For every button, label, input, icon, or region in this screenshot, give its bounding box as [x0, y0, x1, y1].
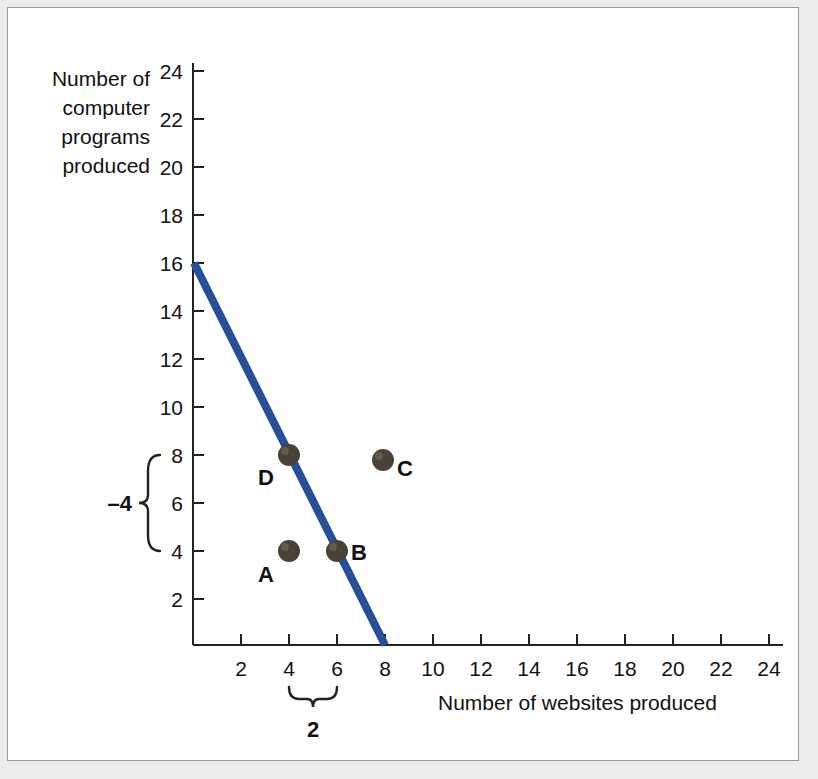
y-axis-brace: –4 [108, 455, 160, 551]
y-tick-label: 12 [160, 348, 183, 371]
x-tick-label: 22 [709, 657, 732, 680]
x-tick-label: 4 [283, 657, 295, 680]
y-axis-ticks [193, 71, 204, 599]
x-tick-label: 12 [469, 657, 492, 680]
chart-plot-area: 24 22 20 18 16 14 12 10 8 6 4 2 [8, 8, 800, 762]
data-point-a[interactable]: A [258, 540, 300, 587]
x-tick-label: 18 [613, 657, 636, 680]
y-tick-label: 6 [171, 492, 183, 515]
x-tick-label: 8 [379, 657, 391, 680]
x-tick-label: 24 [757, 657, 781, 680]
figure-page: Number of computer programs produced Num… [0, 0, 818, 779]
data-point-c[interactable]: C [372, 449, 413, 481]
x-axis-brace: 2 [289, 687, 337, 742]
x-tick-label: 20 [661, 657, 684, 680]
x-tick-label: 6 [331, 657, 343, 680]
y-tick-label: 14 [160, 300, 184, 323]
y-tick-label: 10 [160, 396, 183, 419]
data-point-label-c: C [397, 456, 413, 481]
y-axis-brace-label: –4 [108, 491, 133, 516]
data-point-label-a: A [258, 562, 274, 587]
y-tick-label: 22 [160, 108, 183, 131]
y-tick-label: 24 [160, 60, 184, 83]
x-tick-label: 10 [421, 657, 444, 680]
x-axis-brace-label: 2 [307, 717, 319, 742]
y-tick-label: 4 [171, 540, 183, 563]
y-tick-label: 20 [160, 156, 183, 179]
figure-frame: Number of computer programs produced Num… [7, 7, 799, 761]
y-axis-tick-labels: 24 22 20 18 16 14 12 10 8 6 4 2 [160, 60, 184, 611]
x-axis-ticks [241, 634, 769, 645]
x-axis-tick-labels: 2 4 6 8 10 12 14 16 18 20 22 24 [235, 657, 781, 680]
data-point-label-b: B [351, 540, 367, 565]
x-tick-label: 2 [235, 657, 247, 680]
x-tick-label: 16 [565, 657, 588, 680]
y-tick-label: 2 [171, 588, 183, 611]
data-point-label-d: D [258, 465, 274, 490]
y-tick-label: 8 [171, 444, 183, 467]
x-tick-label: 14 [517, 657, 541, 680]
y-tick-label: 18 [160, 204, 183, 227]
y-tick-label: 16 [160, 252, 183, 275]
